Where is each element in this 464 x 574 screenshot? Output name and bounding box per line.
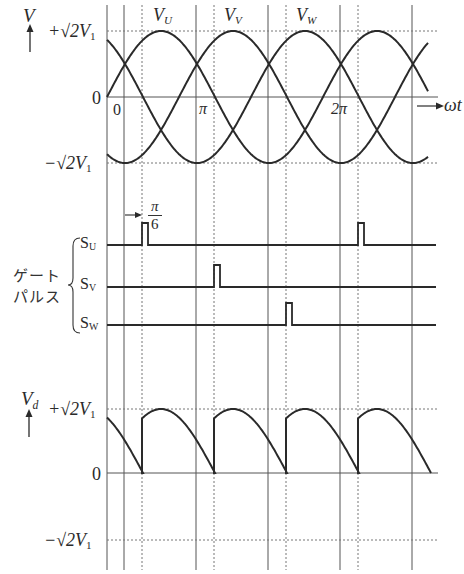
signal-label-sub: W (89, 321, 98, 332)
gate-pulse-traces (107, 223, 436, 325)
y-axis-label-v: V (23, 6, 35, 25)
vd-tick-neg-sub: 1 (86, 539, 92, 551)
curve-label-sub: V (235, 14, 242, 26)
signal-label-sub: V (89, 282, 96, 293)
fraction-denominator: 6 (151, 216, 159, 232)
vd-tick-pos-text: +√2V (48, 399, 90, 419)
tick-neg-sub: 1 (86, 162, 92, 174)
fraction-numerator: π (148, 199, 162, 216)
brace-icon (68, 238, 80, 333)
vd-tick-neg-peak: −√2V1 (44, 531, 92, 551)
signal-label-base: S (80, 234, 89, 251)
signal-label-sub: U (89, 241, 96, 252)
vd-tick-zero: 0 (92, 465, 101, 483)
axis-arrows (26, 24, 445, 437)
curve-label-base: V (224, 5, 235, 25)
signal-label-sv: SV (80, 276, 96, 293)
signal-label-su: SU (80, 235, 96, 252)
delay-label-pi-over-6: π 6 (148, 198, 162, 232)
pulse-trace-sv (107, 265, 436, 287)
curve-label-vu: VU (153, 6, 172, 27)
delay-arrow-head-icon (135, 212, 142, 218)
output-voltage-trace (107, 409, 431, 473)
signal-label-base: S (80, 275, 89, 292)
curve-label-sub: U (164, 14, 172, 26)
gate-pulse-label-line2: パルス (13, 290, 61, 305)
vd-sub: d (33, 399, 39, 412)
tick-pos-text: +√2V (48, 21, 90, 41)
signal-label-sw: SW (80, 315, 98, 332)
x-tick-0: 0 (113, 102, 121, 118)
gate-pulse-label-line1: ゲート (13, 269, 61, 284)
waveform-figure (0, 0, 464, 574)
x-axis-label-omega-t: ωt (444, 96, 462, 114)
vd-curve (107, 409, 431, 473)
vd-tick-pos-peak: +√2V1 (48, 400, 96, 420)
tick-label-pos-peak: +√2V1 (48, 22, 96, 42)
vd-base: V (21, 388, 33, 409)
tick-pos-sub: 1 (90, 30, 96, 42)
right-arrow-head-icon (436, 103, 444, 110)
vd-tick-neg-text: −√2V (44, 530, 86, 550)
curve-label-base: V (296, 5, 307, 25)
tick-label-zero: 0 (92, 89, 101, 107)
tick-neg-text: −√2V (44, 153, 86, 173)
fraction: π 6 (148, 199, 162, 232)
curve-label-sub: W (307, 14, 316, 26)
curve-label-base: V (153, 5, 164, 25)
y-axis-label-vd: Vd (21, 389, 39, 411)
x-tick-pi: π (199, 101, 207, 117)
curve-label-vw: VW (296, 6, 316, 27)
pulse-trace-sw (107, 303, 436, 325)
tick-label-neg-peak: −√2V1 (44, 154, 92, 174)
vd-tick-pos-sub: 1 (90, 408, 96, 420)
signal-label-base: S (80, 314, 89, 331)
x-tick-2pi: 2π (331, 101, 347, 117)
curve-label-vv: VV (224, 6, 242, 27)
